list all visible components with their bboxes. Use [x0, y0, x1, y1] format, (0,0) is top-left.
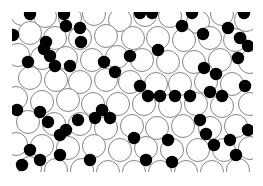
small-disk	[142, 90, 154, 102]
small-disk	[222, 22, 234, 34]
small-disk	[242, 124, 254, 136]
small-disk	[75, 36, 87, 48]
large-disk	[5, 133, 28, 156]
large-disk	[122, 27, 145, 50]
small-disk	[204, 86, 216, 98]
small-disk	[230, 149, 242, 161]
large-disk	[19, 67, 42, 90]
small-disk	[7, 29, 19, 41]
small-disk	[49, 60, 61, 72]
large-disk	[83, 3, 106, 26]
small-disk	[210, 68, 222, 80]
small-disk	[42, 116, 54, 128]
small-disk	[197, 28, 209, 40]
small-disk	[198, 62, 210, 74]
small-disk	[216, 90, 228, 102]
small-disk	[60, 124, 72, 136]
large-disk	[175, 161, 198, 184]
small-disk	[224, 134, 236, 146]
small-disk	[152, 44, 164, 56]
large-disk	[187, 139, 210, 162]
small-disk	[208, 139, 220, 151]
large-disk	[83, 135, 106, 158]
disk-packing-figure	[0, 0, 263, 186]
small-disk	[109, 66, 121, 78]
small-disk	[16, 159, 28, 171]
large-disk	[97, 161, 120, 184]
small-disk	[54, 149, 66, 161]
small-disk	[194, 114, 206, 126]
large-disk	[19, 22, 42, 45]
small-disk	[24, 8, 36, 20]
small-disk	[140, 154, 152, 166]
large-disk	[173, 29, 196, 52]
small-disk	[22, 56, 34, 68]
small-disk	[232, 52, 244, 64]
small-disk	[186, 7, 198, 19]
large-disk	[109, 139, 132, 162]
large-disk	[45, 159, 68, 182]
small-disk	[154, 90, 166, 102]
small-disk	[128, 132, 140, 144]
small-disk	[239, 80, 251, 92]
small-disk	[134, 80, 146, 92]
small-disk	[34, 106, 46, 118]
small-disk	[162, 134, 174, 146]
small-disk	[104, 112, 116, 124]
large-disk	[95, 25, 118, 48]
small-disk	[11, 104, 23, 116]
small-disk	[200, 128, 212, 140]
small-disk	[34, 154, 46, 166]
small-disk	[124, 50, 136, 62]
small-disk	[74, 22, 86, 34]
small-disk	[238, 7, 250, 19]
small-disk	[64, 60, 76, 72]
small-disk	[169, 90, 181, 102]
small-disk	[134, 7, 146, 19]
large-disk	[227, 159, 250, 182]
small-disk	[58, 8, 70, 20]
small-disk	[98, 56, 110, 68]
disk-group	[5, 3, 262, 184]
small-disk	[146, 7, 158, 19]
large-disk	[235, 9, 258, 32]
small-disk	[72, 114, 84, 126]
small-disk	[242, 40, 254, 52]
large-disk	[172, 115, 195, 138]
small-disk	[184, 90, 196, 102]
large-disk	[211, 3, 234, 26]
small-disk	[176, 20, 188, 32]
small-disk	[60, 20, 72, 32]
large-disk	[57, 89, 80, 112]
small-disk	[84, 154, 96, 166]
small-disk	[166, 156, 178, 168]
large-disk	[209, 49, 232, 72]
small-disk	[24, 144, 36, 156]
large-disk	[201, 161, 224, 184]
large-disk	[239, 93, 262, 116]
